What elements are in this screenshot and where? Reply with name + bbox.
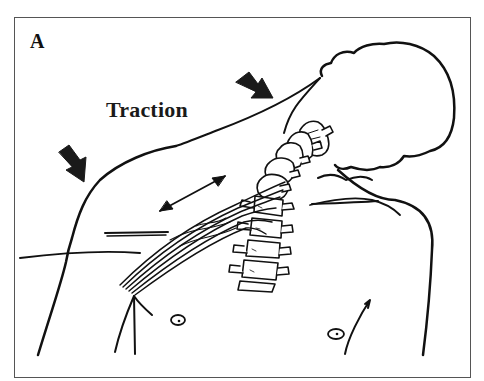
traction-arrow-head-icon [236,72,273,98]
left-clavicle-line [105,232,168,233]
left-nipple [171,315,185,325]
cervical-spine [229,121,333,292]
anatomical-figure: A Traction [0,0,484,381]
left-shoulder-outline [38,146,176,355]
traction-illustration [0,0,484,381]
left-clavicle-line-2 [107,235,166,236]
head-outline [321,43,455,171]
traction-arrow-shoulder-icon [59,145,86,182]
sternum-line-center [134,296,135,354]
sternum-line-right [345,300,370,354]
stretch-double-arrow [160,176,225,211]
panel-label: A [30,30,44,53]
traction-annotation: Traction [106,97,188,123]
left-trapezius-line [20,252,140,258]
chin-line [310,198,400,215]
